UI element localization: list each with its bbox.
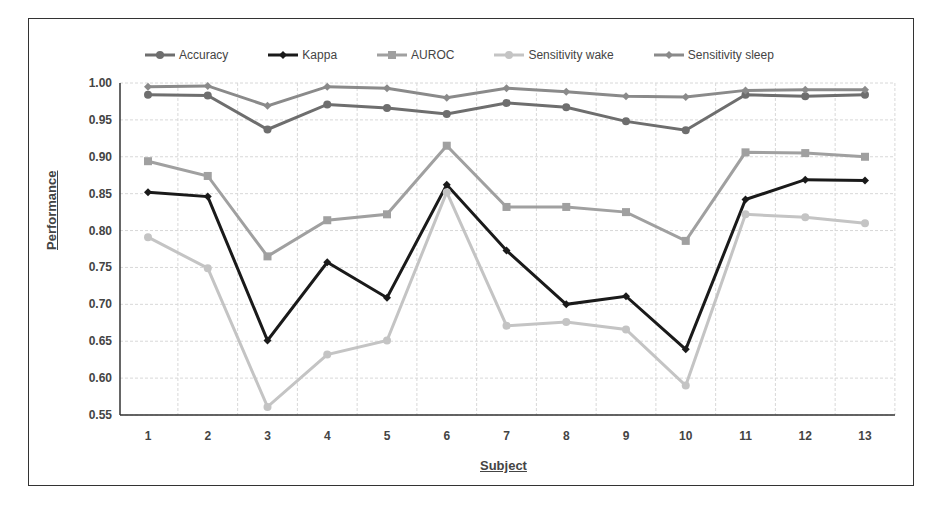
x-tick-label: 11 [739,429,752,443]
y-tick-label: 0.80 [89,224,113,238]
y-tick-label: 0.90 [89,150,113,164]
x-tick-label: 2 [204,429,211,443]
x-tick-label: 9 [623,429,630,443]
x-tick-label: 1 [145,429,152,443]
x-tick-label: 8 [563,429,570,443]
series-sensitivity-wake [144,188,869,411]
x-tick-label: 3 [264,429,271,443]
x-tick-label: 6 [443,429,450,443]
line-chart-plot: 0.550.600.650.700.750.800.850.900.951.00… [0,0,941,511]
x-tick-label: 5 [384,429,391,443]
series-accuracy [144,91,869,134]
y-tick-label: 0.60 [89,371,113,385]
y-tick-label: 0.55 [89,408,113,422]
y-tick-label: 0.65 [89,334,113,348]
x-tick-label: 7 [503,429,510,443]
y-tick-label: 1.00 [89,76,113,90]
y-tick-label: 0.70 [89,297,113,311]
x-tick-label: 13 [858,429,872,443]
x-tick-label: 4 [324,429,331,443]
y-tick-label: 0.75 [89,260,113,274]
x-tick-label: 10 [679,429,693,443]
y-tick-label: 0.95 [89,113,113,127]
x-tick-label: 12 [799,429,813,443]
y-tick-label: 0.85 [89,187,113,201]
series-auroc [144,142,869,261]
